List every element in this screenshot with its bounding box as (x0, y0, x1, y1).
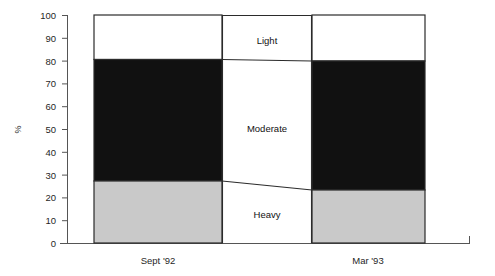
segment-label-moderate: Moderate (222, 124, 312, 134)
y-tick-label-40: 40 (22, 148, 56, 158)
y-tick-label-70: 70 (22, 79, 56, 89)
bar-left-segment-light (94, 15, 222, 60)
y-tick-label-50: 50 (22, 125, 56, 135)
y-tick-label-100: 100 (22, 11, 56, 21)
bar-right-segment-moderate (312, 61, 425, 190)
y-tick-label-30: 30 (22, 171, 56, 181)
y-tick-label-0: 0 (22, 239, 56, 249)
segment-label-heavy: Heavy (222, 210, 312, 220)
y-tick-label-90: 90 (22, 34, 56, 44)
y-tick-label-80: 80 (22, 57, 56, 67)
chart-container: % 100 90 80 70 60 50 40 30 20 10 0 Light… (0, 0, 495, 276)
y-tick-label-20: 20 (22, 193, 56, 203)
y-axis-ticks (62, 16, 68, 244)
bar-right-segment-light (312, 15, 425, 61)
segment-label-light: Light (222, 36, 312, 46)
x-category-label-1: Mar '93 (328, 256, 408, 266)
bar-left-segment-moderate (94, 60, 222, 182)
y-tick-label-60: 60 (22, 102, 56, 112)
y-tick-label-10: 10 (22, 216, 56, 226)
bar-left-segment-heavy (94, 181, 222, 243)
bar-right-segment-heavy (312, 190, 425, 243)
x-category-label-0: Sept '92 (118, 256, 198, 266)
